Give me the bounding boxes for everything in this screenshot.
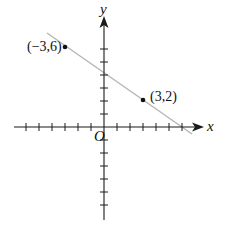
point-label-neg3-6: (−3,6) xyxy=(27,39,62,55)
point-3-2 xyxy=(141,98,146,103)
line-through-points xyxy=(47,33,192,134)
point-neg3-6 xyxy=(63,45,68,50)
point-label-3-2: (3,2) xyxy=(150,89,177,105)
y-axis-label: y xyxy=(98,1,107,17)
coordinate-plane: y x O (−3,6) (3,2) xyxy=(0,0,226,236)
x-axis-label: x xyxy=(206,118,214,134)
origin-label: O xyxy=(94,128,105,144)
